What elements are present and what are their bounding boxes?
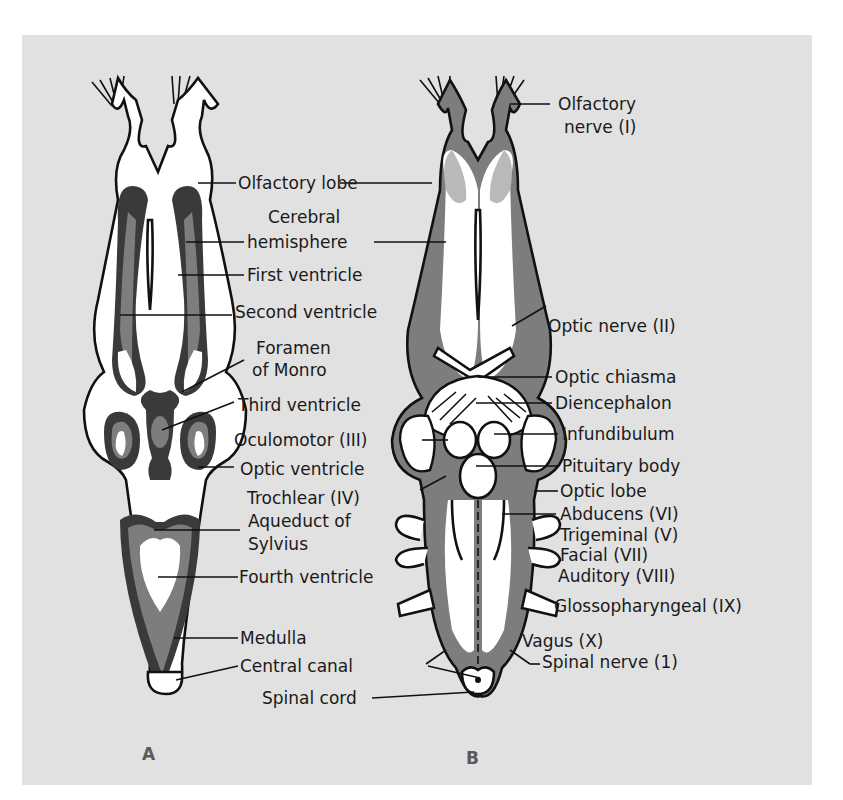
label-infundibulum: Infundibulum <box>562 424 674 444</box>
panel-b-caption: B <box>466 748 479 768</box>
label-trochlear: Trochlear (IV) <box>246 488 360 508</box>
label-olfactory-nerve-1: Olfactory <box>558 94 636 114</box>
label-optic-lobe: Optic lobe <box>560 481 647 501</box>
label-auditory: Auditory (VIII) <box>558 566 675 586</box>
label-spinal-cord: Spinal cord <box>262 688 357 708</box>
label-oculomotor: Oculomotor (III) <box>234 430 367 450</box>
label-third-ventricle: Third ventricle <box>237 395 361 415</box>
label-optic-chiasma: Optic chiasma <box>555 367 676 387</box>
brain-b-ventral <box>392 76 566 696</box>
label-first-ventricle: First ventricle <box>247 265 362 285</box>
label-foramen-of-monro-2: of Monro <box>252 360 327 380</box>
label-cerebral-hemisphere-2: hemisphere <box>247 232 347 252</box>
label-medulla: Medulla <box>240 628 307 648</box>
brain-a-section <box>84 76 246 694</box>
label-glossopharyngeal: Glossopharyngeal (IX) <box>554 596 742 616</box>
label-vagus: Vagus (X) <box>522 631 603 651</box>
label-trigeminal: Trigeminal (V) <box>559 525 678 545</box>
panel-a-caption: A <box>142 744 156 764</box>
label-optic-nerve: Optic nerve (II) <box>548 316 676 336</box>
label-spinal-nerve: Spinal nerve (1) <box>542 652 678 672</box>
label-aqueduct-of-sylvius-2: Sylvius <box>248 534 308 554</box>
label-abducens: Abducens (VI) <box>560 504 679 524</box>
label-diencephalon: Diencephalon <box>555 393 672 413</box>
label-second-ventricle: Second ventricle <box>235 302 377 322</box>
frog-brain-figure: Olfactory lobe Cerebral hemisphere First… <box>0 0 843 800</box>
label-pituitary-body: Pituitary body <box>562 456 680 476</box>
label-cerebral-hemisphere-1: Cerebral <box>268 207 340 227</box>
label-central-canal: Central canal <box>240 656 353 676</box>
label-foramen-of-monro-1: Foramen <box>256 338 331 358</box>
label-optic-ventricle: Optic ventricle <box>240 459 365 479</box>
label-olfactory-nerve-2: nerve (I) <box>564 117 636 137</box>
label-olfactory-lobe: Olfactory lobe <box>238 173 358 193</box>
label-aqueduct-of-sylvius-1: Aqueduct of <box>248 511 352 531</box>
label-facial: Facial (VII) <box>560 545 648 565</box>
label-fourth-ventricle: Fourth ventricle <box>239 567 373 587</box>
